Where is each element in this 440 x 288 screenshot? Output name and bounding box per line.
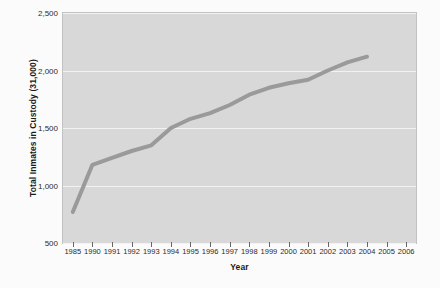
y-axis-tick-label: 1,500 xyxy=(14,124,58,133)
chart-figure: Total Inmates in Custody (31,000) 2,5002… xyxy=(0,0,440,288)
y-axis-tick-labels: 2,5002,0001,5001,000500 xyxy=(10,12,58,244)
series-layer xyxy=(63,13,416,243)
x-axis-tick-labels: 1985199019911992199319941995199619971998… xyxy=(62,247,417,259)
y-axis-tick-label: 2,000 xyxy=(14,67,58,76)
y-axis-tick-label: 1,000 xyxy=(14,182,58,191)
x-axis-title: Year xyxy=(62,262,417,272)
y-axis-tick-label: 2,500 xyxy=(14,9,58,18)
line-series-total-inmates-in-custody xyxy=(63,13,416,243)
x-axis-tickmarks xyxy=(62,240,417,247)
x-axis-tick-label: 2006 xyxy=(391,247,421,257)
y-axis-tick-label: 500 xyxy=(14,239,58,248)
plot-area xyxy=(62,12,417,244)
series-polyline xyxy=(73,57,367,212)
